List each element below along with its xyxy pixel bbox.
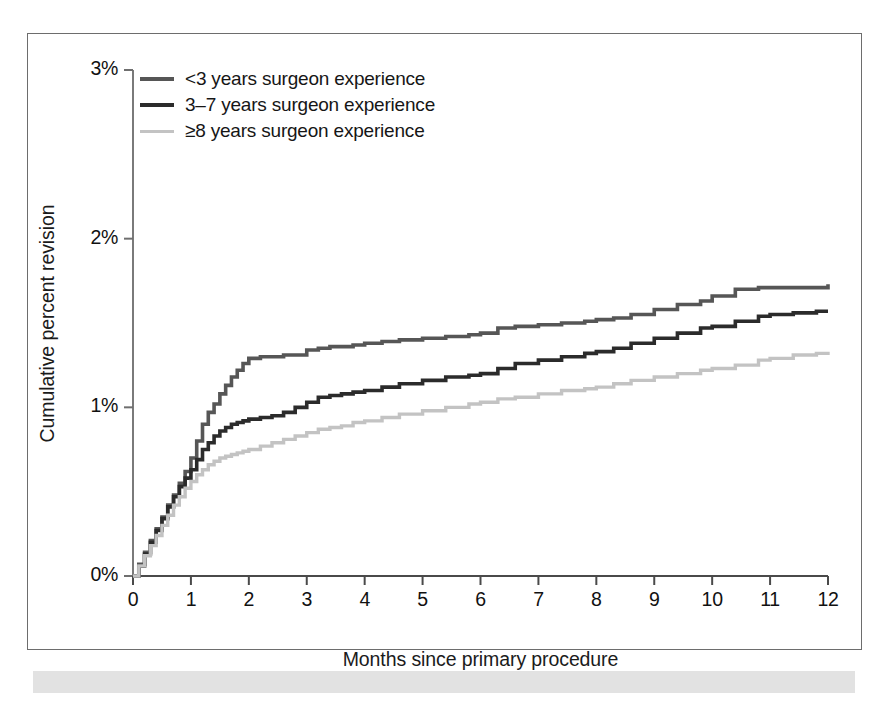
series-line-2	[133, 352, 828, 576]
x-tick-label-4: 4	[345, 588, 385, 611]
x-tick-label-8: 8	[576, 588, 616, 611]
x-tick-label-10: 10	[692, 588, 732, 611]
legend-swatch-line-icon-1	[140, 103, 174, 107]
legend-item-0[interactable]: <3 years surgeon experience	[140, 66, 435, 92]
x-tick-label-7: 7	[518, 588, 558, 611]
x-tick-label-6: 6	[461, 588, 501, 611]
x-tick-label-11: 11	[750, 588, 790, 611]
y-tick-label-1: 1%	[58, 394, 118, 417]
chart-series-group	[133, 284, 828, 576]
y-tick-label-0: 0%	[58, 563, 118, 586]
x-tick-label-5: 5	[403, 588, 443, 611]
y-axis-ticks	[124, 70, 133, 576]
x-tick-label-0: 0	[113, 588, 153, 611]
legend-label-1: 3–7 years surgeon experience	[185, 94, 435, 116]
y-axis-title: Cumulative percent revision	[36, 114, 59, 534]
legend-label-2: ≥8 years surgeon experience	[185, 120, 425, 142]
x-tick-label-12: 12	[808, 588, 848, 611]
legend-item-2[interactable]: ≥8 years surgeon experience	[140, 118, 435, 144]
series-line-1	[133, 311, 828, 576]
x-axis-title: Months since primary procedure	[133, 648, 828, 671]
chart-legend: <3 years surgeon experience3–7 years sur…	[140, 66, 435, 144]
legend-swatch-line-icon-2	[140, 130, 174, 133]
legend-label-0: <3 years surgeon experience	[185, 68, 425, 90]
x-tick-label-2: 2	[229, 588, 269, 611]
x-tick-label-3: 3	[287, 588, 327, 611]
x-axis-ticks	[133, 576, 828, 585]
legend-item-1[interactable]: 3–7 years surgeon experience	[140, 92, 435, 118]
y-tick-label-3: 3%	[58, 57, 118, 80]
x-tick-label-1: 1	[171, 588, 211, 611]
caption-bar	[33, 671, 855, 693]
y-tick-label-2: 2%	[58, 226, 118, 249]
x-tick-label-9: 9	[634, 588, 674, 611]
legend-swatch-line-icon-0	[140, 77, 174, 81]
chart-plot-area: 3% 2% 1% 0% 0123456789101112 Cumulative …	[0, 0, 880, 705]
